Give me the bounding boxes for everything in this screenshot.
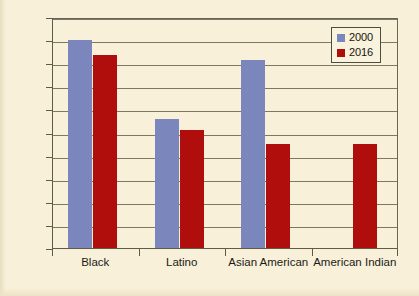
x-axis-tick: [312, 249, 313, 256]
bar-2016-asian-american[interactable]: [266, 144, 290, 248]
x-axis-label-latino: Latino: [166, 256, 197, 268]
x-axis-label-black: Black: [81, 256, 109, 268]
bar-2000-black[interactable]: [68, 40, 92, 248]
x-axis-label-asian-american: Asian American: [228, 256, 308, 268]
legend-item-2000[interactable]: 2000: [337, 31, 373, 44]
x-axis-tick: [139, 249, 140, 256]
legend: 20002016: [331, 27, 381, 63]
bar-2016-black[interactable]: [93, 55, 117, 248]
page-edge-shading-left: [0, 0, 6, 296]
legend-item-2016[interactable]: 2016: [337, 46, 373, 59]
bar-2016-american-indian[interactable]: [353, 144, 377, 248]
legend-label: 2000: [349, 32, 373, 43]
bar-chart-figure: 00.10.20.30.40.50.60.70.80.91 BlackLatin…: [0, 0, 419, 296]
bar-group: [140, 19, 227, 248]
bar-group: [53, 19, 140, 248]
page-edge-shading-bottom: [0, 288, 419, 296]
x-axis-label-american-indian: American Indian: [313, 256, 396, 268]
x-axis-tick: [52, 249, 53, 256]
x-axis-tick: [397, 249, 398, 256]
x-axis-labels: BlackLatinoAsian AmericanAmerican Indian: [52, 256, 398, 276]
x-axis-tick: [225, 249, 226, 256]
bar-2000-asian-american[interactable]: [241, 60, 265, 248]
bar-2000-latino[interactable]: [155, 119, 179, 248]
bar-2016-latino[interactable]: [180, 130, 204, 248]
x-axis-ticks: [52, 249, 398, 256]
legend-swatch-icon: [337, 49, 345, 57]
legend-swatch-icon: [337, 34, 345, 42]
legend-label: 2016: [349, 47, 373, 58]
bar-group: [226, 19, 313, 248]
